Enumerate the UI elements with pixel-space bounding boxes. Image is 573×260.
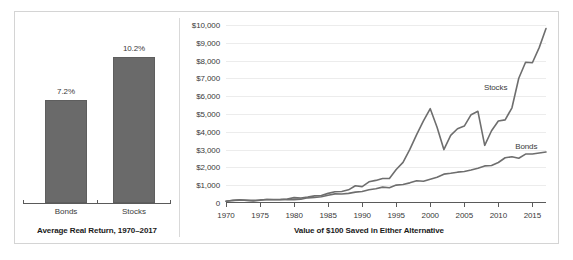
series-label-stocks: Stocks <box>484 83 507 92</box>
series-label-bonds: Bonds <box>515 142 537 151</box>
line-x-tick <box>532 203 533 207</box>
bar-chart-caption: Average Real Return, 1970–2017 <box>15 226 179 235</box>
line-y-tick-label: $6,000 <box>196 92 220 101</box>
bar-column-stocks[interactable]: 10.2% <box>113 44 155 203</box>
line-chart-panel: 0$1,000$2,000$3,000$4,000$5,000$6,000$7,… <box>180 12 558 243</box>
bar-category-bonds: Bonds <box>45 207 87 216</box>
line-plot-area: 1970197519801985199019952000200520102015 <box>226 25 546 203</box>
line-y-tick-label: $7,000 <box>196 74 220 83</box>
line-plot-wrapper: 0$1,000$2,000$3,000$4,000$5,000$6,000$7,… <box>180 12 552 243</box>
line-y-tick-label: $10,000 <box>192 21 220 30</box>
line-x-tick-label: 1995 <box>388 211 405 220</box>
bar-chart-panel: 7.2% 10.2% Bonds Stocks Average Real Ret… <box>15 12 179 243</box>
bar-rect-bonds[interactable] <box>45 100 87 203</box>
bar-value-label-bonds: 7.2% <box>45 87 87 97</box>
line-y-tick-label: $5,000 <box>196 110 220 119</box>
line-y-axis-labels: 0$1,000$2,000$3,000$4,000$5,000$6,000$7,… <box>180 12 224 243</box>
line-series-svg <box>226 25 546 203</box>
bar-category-labels: Bonds Stocks <box>25 207 171 219</box>
bar-value-label-stocks: 10.2% <box>113 44 155 54</box>
line-y-tick-label: $2,000 <box>196 163 220 172</box>
line-y-tick-label: 0 <box>216 199 220 208</box>
figure-frame: 7.2% 10.2% Bonds Stocks Average Real Ret… <box>14 11 559 244</box>
line-x-tick-label: 1975 <box>251 211 268 220</box>
line-x-tick-label: 1990 <box>353 211 370 220</box>
line-x-tick-label: 2000 <box>422 211 439 220</box>
series-path-bonds <box>226 152 546 201</box>
line-x-tick <box>464 203 465 207</box>
line-x-tick-label: 2010 <box>490 211 507 220</box>
line-y-tick-label: $4,000 <box>196 127 220 136</box>
bar-rect-stocks[interactable] <box>113 57 155 203</box>
line-x-tick <box>396 203 397 207</box>
line-chart-caption: Value of $100 Saved in Either Alternativ… <box>180 226 558 235</box>
line-x-tick-label: 2015 <box>524 211 541 220</box>
bar-plot-area: 7.2% 10.2% <box>25 26 171 203</box>
line-y-tick-label: $9,000 <box>196 38 220 47</box>
line-x-tick-label: 1980 <box>285 211 302 220</box>
line-y-tick-label: $1,000 <box>196 181 220 190</box>
bar-axis-tick-center <box>97 200 98 204</box>
line-y-tick-label: $8,000 <box>196 56 220 65</box>
series-path-stocks <box>226 29 546 202</box>
line-x-tick-label: 2005 <box>456 211 473 220</box>
line-x-tick <box>498 203 499 207</box>
line-x-tick <box>260 203 261 207</box>
bar-x-axis <box>23 203 171 204</box>
line-x-tick <box>362 203 363 207</box>
bar-axis-tick-right <box>170 200 171 204</box>
line-x-tick <box>430 203 431 207</box>
line-x-tick <box>328 203 329 207</box>
line-x-tick-label: 1985 <box>319 211 336 220</box>
line-x-tick <box>294 203 295 207</box>
line-y-tick-label: $3,000 <box>196 145 220 154</box>
panels-container: 7.2% 10.2% Bonds Stocks Average Real Ret… <box>15 12 558 243</box>
line-x-tick <box>226 203 227 207</box>
bar-category-stocks: Stocks <box>113 207 155 216</box>
bar-axis-tick-left <box>23 200 24 204</box>
bar-column-bonds[interactable]: 7.2% <box>45 87 87 203</box>
line-x-tick-label: 1970 <box>217 211 234 220</box>
